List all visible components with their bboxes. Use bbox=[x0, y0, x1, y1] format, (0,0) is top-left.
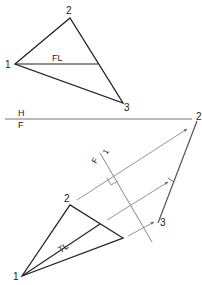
front-vertex-1-label: 1 bbox=[13, 271, 19, 282]
aux-f-label: F bbox=[90, 156, 100, 165]
edge-tick-mid bbox=[168, 178, 174, 182]
front-vertex-2-label: 2 bbox=[64, 193, 70, 204]
f-label: F bbox=[18, 120, 24, 130]
top-vertex-2-label: 2 bbox=[66, 5, 72, 16]
tl-label: TL bbox=[56, 241, 70, 255]
top-view-triangle bbox=[15, 18, 123, 103]
h-label: H bbox=[18, 108, 25, 118]
projector-mid bbox=[107, 182, 168, 220]
front-view-triangle bbox=[22, 205, 123, 276]
fl-label: FL bbox=[52, 53, 63, 63]
aux-1-label: 1 bbox=[101, 147, 111, 156]
top-vertex-1-label: 1 bbox=[5, 59, 11, 70]
edge-3-label: 3 bbox=[160, 217, 166, 228]
top-vertex-3-label: 3 bbox=[124, 102, 130, 113]
edge-view-line bbox=[158, 121, 197, 223]
diagram-canvas: 2 1 3 FL H F 2 1 TL F 1 2 3 bbox=[0, 0, 202, 285]
edge-2-label: 2 bbox=[196, 111, 202, 122]
